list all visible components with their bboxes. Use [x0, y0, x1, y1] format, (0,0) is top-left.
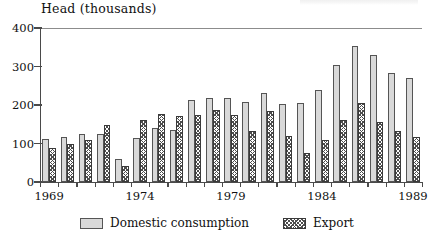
bar-export-1988 — [395, 131, 402, 182]
bar-domestic-consumption-1987 — [370, 55, 377, 182]
bar-domestic-consumption-1972 — [97, 134, 104, 182]
x-axis-tick — [131, 182, 132, 187]
legend-item-export[interactable]: Export — [283, 216, 354, 230]
x-axis-tick — [404, 182, 405, 187]
top-edge-artifact — [300, 0, 418, 5]
bar-export-1984 — [322, 140, 329, 182]
bar-export-1983 — [304, 153, 311, 182]
bar-export-1975 — [158, 114, 165, 182]
x-axis-tick-label: 1979 — [216, 189, 245, 203]
bar-domestic-consumption-1983 — [297, 103, 304, 182]
legend-swatch-export-icon — [283, 218, 306, 229]
x-axis-tick — [113, 182, 114, 187]
x-axis-tick — [349, 182, 350, 187]
bar-domestic-consumption-1973 — [115, 159, 122, 182]
x-axis-tick — [313, 182, 314, 187]
bar-domestic-consumption-1974 — [133, 138, 140, 182]
bar-export-1976 — [176, 116, 183, 182]
x-axis-tick-label: 1984 — [307, 189, 336, 203]
bars-layer — [40, 28, 422, 182]
bar-domestic-consumption-1985 — [333, 65, 340, 182]
legend-swatch-domestic-consumption-icon — [80, 218, 103, 229]
x-axis-tick — [258, 182, 259, 187]
bar-export-1979 — [231, 115, 238, 182]
bar-domestic-consumption-1975 — [152, 128, 159, 182]
bar-export-1985 — [340, 120, 347, 182]
x-axis-tick — [422, 182, 423, 187]
bar-domestic-consumption-1984 — [315, 90, 322, 182]
bar-export-1974 — [140, 120, 147, 182]
bar-export-1969 — [49, 148, 56, 182]
y-axis-tick-label: 300 — [0, 60, 34, 74]
bar-export-1978 — [213, 110, 220, 182]
x-axis-tick — [149, 182, 150, 187]
legend-item-domestic-consumption[interactable]: Domestic consumption — [80, 216, 249, 230]
x-axis-tick-label: 1974 — [125, 189, 154, 203]
bar-domestic-consumption-1979 — [224, 98, 231, 182]
bar-domestic-consumption-1980 — [242, 102, 249, 182]
bar-export-1977 — [195, 115, 202, 182]
x-axis-tick — [204, 182, 205, 187]
legend-label-domestic-consumption: Domestic consumption — [110, 216, 249, 230]
bar-export-1973 — [122, 166, 129, 182]
x-axis-tick — [222, 182, 223, 187]
x-axis-tick — [167, 182, 168, 187]
bar-domestic-consumption-1982 — [279, 104, 286, 182]
bar-domestic-consumption-1976 — [170, 130, 177, 182]
bar-domestic-consumption-1977 — [188, 100, 195, 182]
x-axis-line — [40, 182, 422, 183]
chart-container: Head (thousands) 0100200300400 196919741… — [0, 0, 434, 249]
x-axis-tick-label: 1969 — [34, 189, 63, 203]
y-axis-title: Head (thousands) — [41, 1, 157, 16]
bar-export-1981 — [267, 111, 274, 182]
bar-export-1986 — [358, 103, 365, 182]
x-axis-tick — [95, 182, 96, 187]
y-axis-tick-label: 100 — [0, 137, 34, 151]
x-axis-tick — [331, 182, 332, 187]
bar-domestic-consumption-1988 — [388, 73, 395, 182]
x-axis-tick — [386, 182, 387, 187]
bar-domestic-consumption-1969 — [42, 139, 49, 182]
bar-export-1982 — [286, 136, 293, 182]
legend-label-export: Export — [313, 216, 354, 230]
y-axis-tick-label: 0 — [0, 175, 34, 189]
x-axis-tick — [186, 182, 187, 187]
x-axis-tick — [295, 182, 296, 187]
bar-domestic-consumption-1978 — [206, 98, 213, 182]
y-axis-tick-label: 200 — [0, 98, 34, 112]
bar-domestic-consumption-1971 — [79, 134, 86, 182]
x-axis-tick — [276, 182, 277, 187]
chart-legend: Domestic consumption Export — [0, 216, 434, 230]
x-axis-tick — [58, 182, 59, 187]
bar-export-1987 — [377, 122, 384, 182]
x-axis-tick — [40, 182, 41, 187]
bar-export-1971 — [85, 140, 92, 182]
x-axis-tick — [76, 182, 77, 187]
y-axis-tick-label: 400 — [0, 21, 34, 35]
x-axis-tick — [240, 182, 241, 187]
bar-export-1980 — [249, 131, 256, 182]
bar-domestic-consumption-1986 — [352, 46, 359, 182]
bar-export-1972 — [104, 125, 111, 182]
x-axis-tick-label: 1989 — [398, 189, 427, 203]
bar-export-1970 — [67, 144, 74, 182]
bar-domestic-consumption-1970 — [61, 137, 68, 182]
bar-domestic-consumption-1989 — [406, 78, 413, 182]
x-axis-tick — [367, 182, 368, 187]
bar-export-1989 — [413, 137, 420, 182]
bar-domestic-consumption-1981 — [261, 93, 268, 182]
